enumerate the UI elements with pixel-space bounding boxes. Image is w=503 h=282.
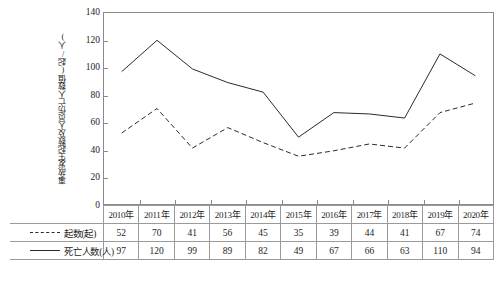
table-column-header: 2020年 bbox=[458, 206, 493, 224]
table-cell: 41 bbox=[174, 224, 209, 242]
table-row: 死亡人数(人)971209989824967666311094 bbox=[10, 242, 494, 260]
series-line-deaths bbox=[122, 40, 476, 137]
table-cell: 45 bbox=[245, 224, 280, 242]
legend-entry: 起数(起) bbox=[10, 224, 104, 242]
legend-label: 死亡人数(人) bbox=[64, 244, 114, 258]
table-cell: 94 bbox=[458, 242, 493, 260]
data-table: 2010年2011年2012年2013年2014年2015年2016年2017年… bbox=[10, 205, 494, 260]
x-tick-mark bbox=[388, 200, 389, 204]
table-column-header: 2016年 bbox=[316, 206, 351, 224]
table-cell: 56 bbox=[210, 224, 245, 242]
table-corner-cell bbox=[10, 206, 104, 224]
legend-entry: 死亡人数(人) bbox=[10, 242, 104, 260]
x-tick-mark bbox=[282, 200, 283, 204]
table-cell: 49 bbox=[281, 242, 316, 260]
series-line-incidents bbox=[122, 103, 476, 156]
y-tick-label: 60 bbox=[70, 117, 100, 127]
table-cell: 89 bbox=[210, 242, 245, 260]
table-cell: 39 bbox=[316, 224, 351, 242]
table-cell: 82 bbox=[245, 242, 280, 260]
x-tick-mark bbox=[424, 200, 425, 204]
table-row: 起数(起)5270415645353944416774 bbox=[10, 224, 494, 242]
table-cell: 35 bbox=[281, 224, 316, 242]
x-tick-mark bbox=[459, 200, 460, 204]
table-column-header: 2010年 bbox=[104, 206, 139, 224]
table-header-row: 2010年2011年2012年2013年2014年2015年2016年2017年… bbox=[10, 206, 494, 224]
table-column-header: 2011年 bbox=[139, 206, 174, 224]
legend-line-swatch bbox=[30, 250, 60, 251]
table-cell: 52 bbox=[104, 224, 139, 242]
chart-figure: 事故发生起数及人员伤亡人数值(起/人) 020406080100120140 2… bbox=[0, 0, 503, 282]
table-cell: 74 bbox=[458, 224, 493, 242]
table-column-header: 2019年 bbox=[423, 206, 458, 224]
x-tick-mark bbox=[317, 200, 318, 204]
table-cell: 120 bbox=[139, 242, 174, 260]
table-column-header: 2015年 bbox=[281, 206, 316, 224]
legend-label: 起数(起) bbox=[64, 226, 96, 240]
table-column-header: 2014年 bbox=[245, 206, 280, 224]
x-tick-mark bbox=[175, 200, 176, 204]
y-tick-label: 140 bbox=[70, 7, 100, 17]
y-tick-mark bbox=[104, 68, 108, 69]
x-tick-mark bbox=[140, 200, 141, 204]
table-column-header: 2017年 bbox=[352, 206, 387, 224]
table-cell: 66 bbox=[352, 242, 387, 260]
table-cell: 67 bbox=[423, 224, 458, 242]
plot-lines bbox=[104, 13, 493, 204]
table-column-header: 2013年 bbox=[210, 206, 245, 224]
x-tick-mark bbox=[353, 200, 354, 204]
table-column-header: 2018年 bbox=[387, 206, 422, 224]
y-tick-mark bbox=[104, 178, 108, 179]
table-cell: 41 bbox=[387, 224, 422, 242]
y-axis-title: 事故发生起数及人员伤亡人数值(起/人) bbox=[56, 12, 70, 205]
table-cell: 110 bbox=[423, 242, 458, 260]
table-cell: 67 bbox=[316, 242, 351, 260]
y-tick-label: 20 bbox=[70, 172, 100, 182]
y-tick-label: 120 bbox=[70, 35, 100, 45]
table-cell: 70 bbox=[139, 224, 174, 242]
y-tick-mark bbox=[104, 123, 108, 124]
y-tick-mark bbox=[104, 96, 108, 97]
x-tick-mark bbox=[211, 200, 212, 204]
plot-area bbox=[103, 12, 494, 205]
y-tick-label: 40 bbox=[70, 145, 100, 155]
y-tick-mark bbox=[104, 41, 108, 42]
y-tick-label: 100 bbox=[70, 62, 100, 72]
x-tick-mark bbox=[246, 200, 247, 204]
table-column-header: 2012年 bbox=[174, 206, 209, 224]
legend-line-swatch bbox=[30, 232, 60, 233]
y-tick-mark bbox=[104, 151, 108, 152]
y-tick-label: 80 bbox=[70, 90, 100, 100]
table-cell: 63 bbox=[387, 242, 422, 260]
table-cell: 44 bbox=[352, 224, 387, 242]
table-cell: 99 bbox=[174, 242, 209, 260]
